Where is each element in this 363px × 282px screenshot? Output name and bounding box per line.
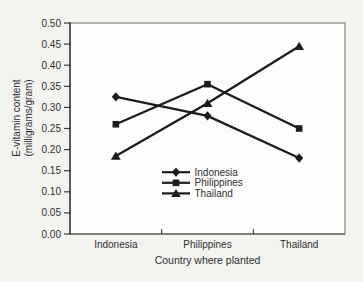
y-tick-label: 0.45: [42, 39, 62, 50]
x-axis-title: Country where planted: [155, 254, 261, 266]
y-axis-title-line: (milligrams/gram): [23, 79, 34, 156]
x-category-label: Indonesia: [94, 239, 138, 250]
y-tick-label: 0.15: [42, 165, 62, 176]
evitamin-line-chart-figure: 0.500.450.400.350.300.250.200.150.100.05…: [0, 0, 363, 282]
legend-marker: [173, 180, 180, 187]
y-tick-label: 0.25: [42, 123, 62, 134]
legend: IndonesiaPhilippinesThailand: [162, 167, 243, 199]
y-tick-label: 0.10: [42, 186, 62, 197]
y-tick-label: 0.40: [42, 60, 62, 71]
plot-frame: [70, 23, 345, 234]
y-tick-label: 0.05: [42, 207, 62, 218]
x-category-label: Thailand: [280, 239, 318, 250]
y-tick-label: 0.20: [42, 144, 62, 155]
series-marker: [204, 81, 211, 88]
y-tick-label: 0.30: [42, 102, 62, 113]
x-category-label: Philippines: [183, 239, 231, 250]
line-chart: 0.500.450.400.350.300.250.200.150.100.05…: [0, 0, 363, 282]
legend-label: Indonesia: [195, 167, 239, 178]
y-axis-title-line: E-vitamin content: [11, 79, 22, 156]
series-marker: [113, 121, 120, 128]
legend-label: Thailand: [195, 188, 233, 199]
y-tick-label: 0.00: [42, 229, 62, 240]
series-marker: [296, 125, 303, 132]
y-tick-label: 0.50: [42, 18, 62, 29]
legend-label: Philippines: [195, 177, 243, 188]
y-tick-label: 0.35: [42, 81, 62, 92]
